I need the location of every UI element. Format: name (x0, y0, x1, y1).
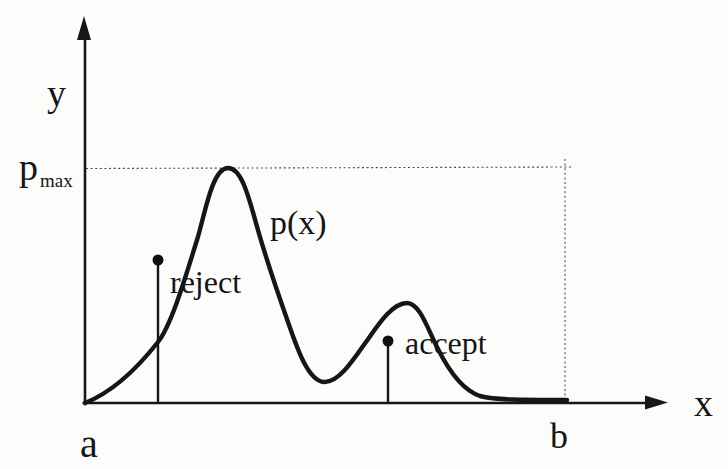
interval-start-label: a (80, 421, 98, 466)
pmax-label-subscript: max (40, 170, 73, 191)
reject-label: reject (170, 264, 241, 300)
curve-label: p(x) (270, 204, 327, 242)
reject-sample-point (153, 255, 164, 266)
pmax-label-base: p (19, 146, 38, 188)
y-axis-label: y (47, 72, 66, 114)
y-axis-arrowhead (77, 16, 91, 40)
interval-end-label: b (550, 416, 568, 456)
x-axis-label: x (694, 382, 713, 424)
pmax-dotted-line (86, 167, 572, 169)
accept-sample-point (383, 336, 394, 347)
rejection-sampling-figure: y p max p(x) reject accept a b x (0, 0, 728, 469)
figure-svg: y p max p(x) reject accept a b x (0, 0, 728, 469)
accept-label: accept (405, 325, 487, 361)
x-axis-arrowhead (645, 396, 668, 410)
